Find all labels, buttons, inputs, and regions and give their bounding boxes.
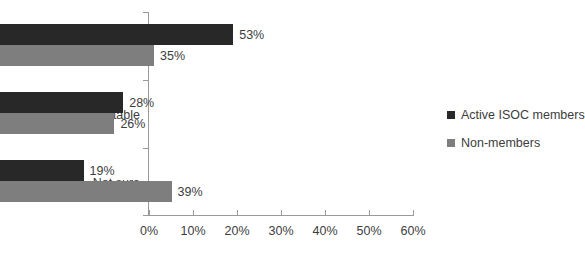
x-axis-tick (237, 210, 238, 216)
bar-label-active-isoc-members-0: 53% (233, 28, 264, 42)
legend-label-non-members: Non-members (461, 136, 540, 150)
x-axis-label-3: 30% (261, 224, 301, 238)
y-axis-tick (143, 148, 149, 149)
bar-label-non-members-0: 35% (154, 49, 185, 63)
bar-non-members-2 (0, 181, 172, 202)
x-axis-tick (149, 210, 150, 216)
x-axis-tick (369, 210, 370, 216)
x-axis-label-5: 50% (349, 224, 389, 238)
x-axis-tick (281, 210, 282, 216)
legend-label-active-isoc-members: Active ISOC members (461, 108, 585, 122)
bar-label-active-isoc-members-2: 19% (84, 164, 115, 178)
x-axis-tick (193, 210, 194, 216)
bar-non-members-0 (0, 45, 154, 66)
y-axis-tick (143, 80, 149, 81)
x-axis-tick (413, 210, 414, 216)
x-axis-label-2: 20% (217, 224, 257, 238)
x-axis-tick (325, 210, 326, 216)
legend-swatch-icon (447, 139, 455, 147)
bar-active-isoc-members-0 (0, 24, 233, 45)
x-axis-label-0: 0% (129, 224, 169, 238)
bar-active-isoc-members-1 (0, 92, 123, 113)
y-axis-tick (143, 12, 149, 13)
bar-active-isoc-members-2 (0, 160, 84, 181)
chart-legend: Active ISOC members Non-members (447, 108, 585, 164)
bar-label-non-members-1: 26% (114, 117, 145, 131)
legend-item-non-members[interactable]: Non-members (447, 136, 585, 150)
legend-item-active-isoc-members[interactable]: Active ISOC members (447, 108, 585, 122)
x-axis-label-6: 60% (393, 224, 433, 238)
x-axis-label-1: 10% (173, 224, 213, 238)
bar-label-active-isoc-members-1: 28% (123, 96, 154, 110)
x-axis-label-4: 40% (305, 224, 345, 238)
legend-swatch-icon (447, 111, 455, 119)
bar-non-members-1 (0, 113, 114, 134)
bar-label-non-members-2: 39% (172, 185, 203, 199)
